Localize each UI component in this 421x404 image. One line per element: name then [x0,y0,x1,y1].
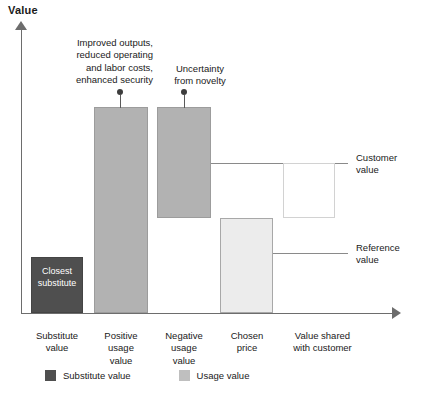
bar-negative-usage-value [157,107,211,218]
chart-legend: Substitute value Usage value [45,370,249,381]
legend-item-usage-value: Usage value [179,370,250,381]
callout-stem-positive [120,95,121,108]
callout-negative-line1: Uncertainty [157,63,243,75]
x-category-label-value-shared-with-customer: Value shared with customer [280,330,365,355]
callout-dot-negative-icon [181,89,187,95]
customer-value-label-line2: value [356,164,416,176]
legend-item-substitute-value: Substitute value [45,370,131,381]
x-category-label-chosen-price: Chosen price [216,330,278,355]
callout-positive-line3: and labor costs, [28,62,153,74]
bar-substitute-inline-label-line2: substitute [31,278,83,290]
x-category-label-positive-usage-value: Positive usage value [88,330,154,367]
bar-substitute-inline-label-line1: Closest [31,266,83,278]
bar-substitute-inline-label: Closest substitute [31,266,83,289]
bar-chosen-price [220,218,273,313]
reference-value-label-line2: value [356,254,416,266]
callout-positive-line2: reduced operating [28,49,153,61]
x-category-3-line2: price [216,342,278,354]
callout-positive-line4: enhanced security [28,74,153,86]
x-category-0-line2: value [22,342,92,354]
customer-value-label-line1: Customer [356,152,416,164]
chart-canvas: Value Customer value Reference value Clo… [0,0,421,404]
x-category-label-substitute-value: Substitute value [22,330,92,355]
x-category-2-line2: usage [151,342,217,354]
x-axis-line [21,313,394,314]
x-category-3-line1: Chosen [216,330,278,342]
x-category-2-line1: Negative [151,330,217,342]
customer-value-label: Customer value [356,152,416,176]
legend-label-substitute-value: Substitute value [63,370,131,381]
bar-value-shared-with-customer [283,163,335,218]
callout-dot-positive-icon [117,89,123,95]
callout-positive-text: Improved outputs, reduced operating and … [28,37,153,86]
x-category-0-line1: Substitute [22,330,92,342]
x-axis-arrow-icon [392,307,401,319]
callout-negative-text: Uncertainty from novelty [157,63,243,88]
legend-swatch-substitute-value-icon [45,370,56,381]
x-category-1-line1: Positive [88,330,154,342]
bar-positive-usage-value [94,107,148,313]
callout-positive-line1: Improved outputs, [28,37,153,49]
x-category-4-line1: Value shared [280,330,365,342]
legend-label-usage-value: Usage value [197,370,250,381]
x-category-2-line3: value [151,355,217,367]
x-category-1-line3: value [88,355,154,367]
x-category-label-negative-usage-value: Negative usage value [151,330,217,367]
reference-value-label-line1: Reference [356,242,416,254]
x-category-1-line2: usage [88,342,154,354]
reference-value-label: Reference value [356,242,416,266]
y-axis-line [21,28,22,314]
chart-title: Value [8,4,38,16]
x-category-4-line2: with customer [280,342,365,354]
callout-stem-negative [184,95,185,108]
callout-negative-line2: from novelty [157,75,243,87]
legend-swatch-usage-value-icon [179,370,190,381]
